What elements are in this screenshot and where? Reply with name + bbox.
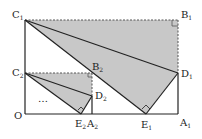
label-A2: A2 — [86, 118, 98, 130]
geometry-diagram: C1 B1 D1 A1 E1 C2 B2 D2 E2 A2 O … — [0, 0, 202, 139]
ellipsis: … — [38, 93, 48, 104]
label-O: O — [14, 110, 22, 121]
label-A1: A1 — [179, 117, 191, 129]
label-D2: D2 — [95, 90, 107, 102]
label-C1: C1 — [12, 9, 23, 21]
label-E2: E2 — [75, 118, 86, 130]
label-D1: D1 — [181, 68, 193, 80]
label-E1: E1 — [141, 119, 152, 131]
label-C2: C2 — [12, 67, 24, 79]
label-B1: B1 — [181, 9, 192, 21]
